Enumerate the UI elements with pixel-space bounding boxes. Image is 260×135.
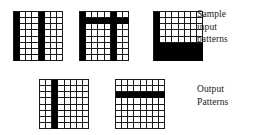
label-line: Sample	[197, 8, 228, 21]
sample-input-patterns-label: Sample input patterns	[197, 8, 228, 46]
grid-cell	[57, 55, 63, 61]
grid-cell	[159, 123, 165, 129]
grid-cell	[83, 123, 89, 129]
grid-cell	[197, 55, 203, 61]
grid-cell	[123, 55, 129, 61]
input-pattern-1	[13, 11, 63, 61]
output-pattern-2	[115, 79, 165, 129]
output-pattern-1	[39, 79, 89, 129]
label-line: Patterns	[197, 96, 228, 109]
label-line: patterns	[197, 33, 228, 46]
label-line: Output	[197, 83, 228, 96]
input-pattern-2	[79, 11, 129, 61]
output-patterns-label: Output Patterns	[197, 83, 228, 108]
pattern-figure: Sample input patterns Output Patterns	[0, 0, 260, 135]
label-line: input	[197, 21, 228, 34]
input-pattern-3	[153, 11, 203, 61]
